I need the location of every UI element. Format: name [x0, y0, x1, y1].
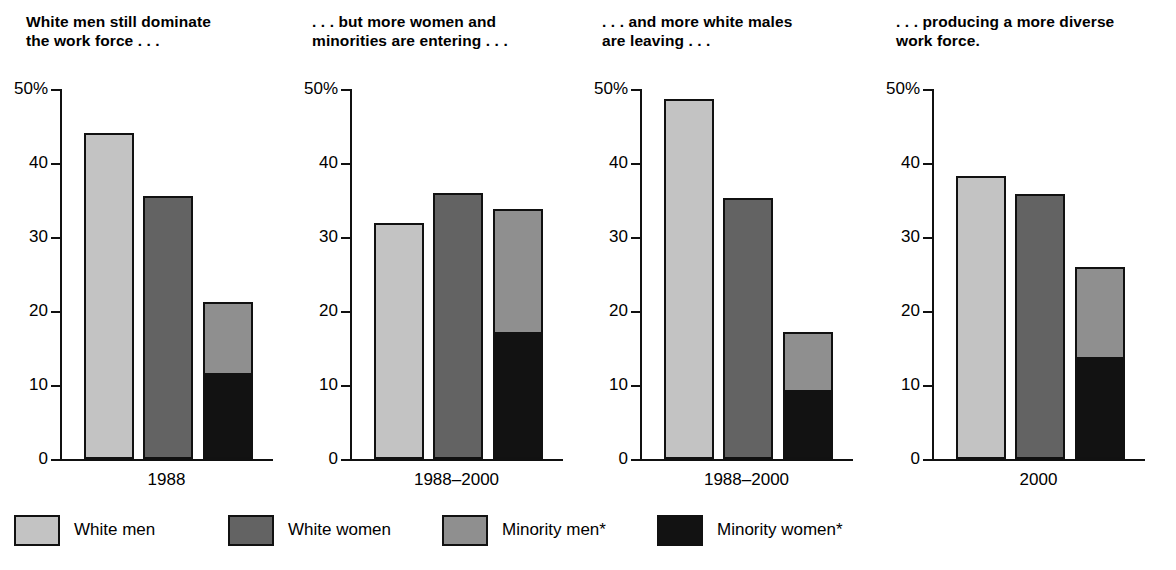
bar-segment-white-men [958, 178, 1004, 457]
y-axis-tick-label: 30 [288, 228, 338, 245]
legend-label-minority-men: Minority men* [502, 521, 606, 539]
y-axis-tick-label: 20 [288, 302, 338, 319]
legend-swatch-white-men [14, 515, 60, 546]
y-axis-tick [923, 89, 934, 91]
bar-segment-minority-men- [495, 211, 541, 332]
chart-panel-3: . . . and more white males are leaving .… [580, 0, 870, 492]
y-axis-tick [923, 237, 934, 239]
legend-item-white-men: White men [14, 508, 155, 552]
legend-swatch-white-women [228, 515, 274, 546]
bar-segment-minority-men- [785, 334, 831, 390]
y-axis-tick-label: 40 [870, 154, 920, 171]
bar-segment-white-women [725, 200, 771, 457]
bar-segment-white-men [666, 101, 712, 457]
bar-white-men [374, 223, 424, 459]
bar-white-men [664, 99, 714, 459]
legend-label-white-women: White women [288, 521, 391, 539]
bar-white-men [84, 133, 134, 459]
x-axis-category-label: 1988–2000 [640, 471, 853, 489]
y-axis-tick-label: 30 [578, 228, 628, 245]
y-axis-tick [631, 89, 642, 91]
y-axis-tick [341, 385, 352, 387]
plot-area-1: 50%4030201001988 [0, 0, 290, 492]
y-axis-tick [341, 237, 352, 239]
y-axis-tick-label: 20 [870, 302, 920, 319]
x-axis-category-label: 2000 [932, 471, 1145, 489]
y-axis-tick [923, 459, 934, 461]
bar-segment-minority-men- [1077, 269, 1123, 357]
y-axis-tick-label: 50% [870, 80, 920, 97]
legend-label-white-men: White men [74, 521, 155, 539]
y-axis-line [932, 89, 934, 461]
bar-segment-white-women [1017, 196, 1063, 457]
x-axis-line [640, 459, 853, 461]
y-axis-tick-label: 0 [288, 450, 338, 467]
y-axis-tick [341, 89, 352, 91]
y-axis-tick [51, 237, 62, 239]
legend-label-minority-women: Minority women* [717, 521, 843, 539]
bar-minority [1075, 267, 1125, 459]
bar-segment-minority-women- [785, 390, 831, 457]
bar-minority [203, 302, 253, 459]
y-axis-line [640, 89, 642, 461]
bar-minority [493, 209, 543, 459]
bar-white-women [143, 196, 193, 459]
y-axis-tick-label: 20 [578, 302, 628, 319]
y-axis-tick-label: 50% [0, 80, 48, 97]
x-axis-category-label: 1988 [60, 471, 273, 489]
bar-segment-minority-women- [1077, 357, 1123, 457]
chart-panel-2: . . . but more women and minorities are … [290, 0, 580, 492]
bar-segment-minority-men- [205, 304, 251, 373]
y-axis-tick-label: 10 [0, 376, 48, 393]
y-axis-tick [51, 385, 62, 387]
y-axis-line [60, 89, 62, 461]
legend: White men White women Minority men* Mino… [0, 508, 1176, 564]
y-axis-tick-label: 50% [578, 80, 628, 97]
y-axis-tick-label: 0 [0, 450, 48, 467]
bar-segment-white-men [376, 225, 422, 457]
y-axis-tick-label: 10 [578, 376, 628, 393]
y-axis-tick-label: 0 [578, 450, 628, 467]
y-axis-line [350, 89, 352, 461]
bar-white-women [433, 193, 483, 459]
x-axis-line [350, 459, 563, 461]
x-axis-category-label: 1988–2000 [350, 471, 563, 489]
y-axis-tick [631, 459, 642, 461]
y-axis-tick-label: 40 [288, 154, 338, 171]
chart-panel-1: White men still dominate the work force … [0, 0, 290, 492]
legend-item-white-women: White women [228, 508, 391, 552]
y-axis-tick [341, 459, 352, 461]
y-axis-tick-label: 30 [0, 228, 48, 245]
y-axis-tick [631, 311, 642, 313]
bar-minority [783, 332, 833, 459]
y-axis-tick [923, 385, 934, 387]
y-axis-tick-label: 40 [0, 154, 48, 171]
bar-white-men [956, 176, 1006, 459]
y-axis-tick-label: 0 [870, 450, 920, 467]
y-axis-tick [51, 459, 62, 461]
legend-swatch-minority-women [657, 515, 703, 546]
plot-area-4: 50%4030201002000 [872, 0, 1162, 492]
legend-swatch-minority-men [442, 515, 488, 546]
bar-segment-white-men [86, 135, 132, 457]
y-axis-tick [631, 237, 642, 239]
y-axis-tick-label: 10 [870, 376, 920, 393]
y-axis-tick [631, 163, 642, 165]
bar-white-women [1015, 194, 1065, 459]
y-axis-tick [51, 89, 62, 91]
y-axis-tick-label: 10 [288, 376, 338, 393]
y-axis-tick [341, 163, 352, 165]
legend-item-minority-men: Minority men* [442, 508, 606, 552]
y-axis-tick [923, 163, 934, 165]
y-axis-tick [923, 311, 934, 313]
y-axis-tick-label: 40 [578, 154, 628, 171]
chart-panel-4: . . . producing a more diverse work forc… [872, 0, 1162, 492]
y-axis-tick-label: 30 [870, 228, 920, 245]
x-axis-line [932, 459, 1145, 461]
x-axis-line [60, 459, 273, 461]
y-axis-tick-label: 50% [288, 80, 338, 97]
bar-white-women [723, 198, 773, 459]
plot-area-2: 50%4030201001988–2000 [290, 0, 580, 492]
bar-segment-minority-women- [495, 332, 541, 457]
figure-root: White men still dominate the work force … [0, 0, 1176, 570]
